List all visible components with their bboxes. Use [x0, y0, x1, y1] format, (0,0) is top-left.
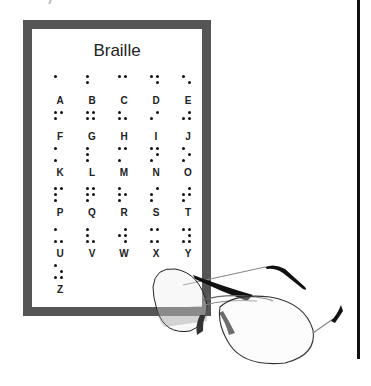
braille-dot: [92, 240, 95, 243]
braille-dot: [92, 111, 95, 114]
braille-letter-label: M: [109, 167, 139, 178]
braille-letter-label: G: [77, 131, 107, 142]
braille-letter-k: K: [45, 147, 75, 181]
braille-dot: [86, 117, 89, 120]
braille-dots: [150, 147, 162, 165]
braille-dots: [118, 228, 130, 246]
braille-dot: [156, 187, 159, 190]
braille-dot: [86, 153, 89, 156]
braille-letter-m: M: [109, 147, 139, 181]
braille-dot: [60, 240, 63, 243]
braille-letter-j: J: [173, 111, 203, 145]
braille-dot: [182, 193, 185, 196]
braille-letter-v: V: [77, 228, 107, 262]
braille-dot: [86, 81, 89, 84]
braille-dot: [150, 147, 153, 150]
vertical-divider-line: [357, 0, 360, 359]
braille-letter-q: Q: [77, 187, 107, 221]
braille-dot: [54, 117, 57, 120]
braille-letter-e: E: [173, 75, 203, 109]
braille-dot: [150, 75, 153, 78]
braille-dots: [118, 75, 130, 93]
braille-letter-label: Z: [45, 284, 75, 295]
braille-dot: [86, 75, 89, 78]
braille-letter-label: K: [45, 167, 75, 178]
braille-dot: [150, 228, 153, 231]
braille-dot: [86, 234, 89, 237]
braille-dot: [118, 147, 121, 150]
braille-letter-label: C: [109, 95, 139, 106]
braille-letter-label: T: [173, 207, 203, 218]
braille-letter-g: G: [77, 111, 107, 145]
braille-letter-w: W: [109, 228, 139, 262]
braille-dot: [124, 147, 127, 150]
braille-dot: [182, 228, 185, 231]
braille-dot: [118, 75, 121, 78]
braille-dot: [150, 117, 153, 120]
braille-dot: [150, 240, 153, 243]
braille-dot: [54, 159, 57, 162]
braille-letter-z: Z: [45, 264, 75, 298]
braille-dot: [156, 81, 159, 84]
braille-dot: [182, 240, 185, 243]
braille-letter-label: B: [77, 95, 107, 106]
braille-dot: [156, 75, 159, 78]
braille-dot: [182, 199, 185, 202]
braille-dot: [182, 75, 185, 78]
braille-dot: [86, 228, 89, 231]
braille-letter-t: T: [173, 187, 203, 221]
braille-dots: [54, 111, 66, 129]
braille-dot: [118, 234, 121, 237]
braille-letter-label: H: [109, 131, 139, 142]
braille-dot: [188, 228, 191, 231]
braille-letter-label: A: [45, 95, 75, 106]
braille-dots: [150, 228, 162, 246]
braille-dot: [54, 147, 57, 150]
braille-dot: [150, 193, 153, 196]
braille-dot: [188, 81, 191, 84]
braille-dot: [86, 199, 89, 202]
braille-dot: [86, 187, 89, 190]
braille-letter-label: U: [45, 248, 75, 259]
braille-letter-label: E: [173, 95, 203, 106]
braille-dots: [182, 111, 194, 129]
braille-dots: [118, 187, 130, 205]
braille-dot: [92, 117, 95, 120]
eyeglasses-icon: [145, 255, 345, 370]
braille-letter-label: W: [109, 248, 139, 259]
braille-dot: [124, 228, 127, 231]
braille-dots: [150, 187, 162, 205]
braille-dots: [118, 111, 130, 129]
braille-dot: [188, 111, 191, 114]
braille-dot: [54, 228, 57, 231]
braille-letter-r: R: [109, 187, 139, 221]
braille-dot: [60, 187, 63, 190]
braille-dot: [156, 147, 159, 150]
braille-letter-b: B: [77, 75, 107, 109]
braille-letter-label: P: [45, 207, 75, 218]
braille-dot: [150, 159, 153, 162]
braille-dot: [118, 193, 121, 196]
braille-dots: [118, 147, 130, 165]
braille-letter-l: L: [77, 147, 107, 181]
braille-letter-label: J: [173, 131, 203, 142]
braille-dot: [188, 117, 191, 120]
braille-dot: [188, 187, 191, 190]
braille-letter-label: L: [77, 167, 107, 178]
braille-dots: [54, 228, 66, 246]
braille-dot: [156, 153, 159, 156]
braille-letter-o: O: [173, 147, 203, 181]
braille-dots: [54, 264, 66, 282]
braille-dot: [92, 193, 95, 196]
braille-dot: [86, 111, 89, 114]
braille-dot: [54, 187, 57, 190]
braille-dots: [150, 75, 162, 93]
braille-dots: [54, 147, 66, 165]
braille-dot: [118, 117, 121, 120]
braille-dot: [156, 240, 159, 243]
braille-dot: [124, 234, 127, 237]
braille-dot: [60, 270, 63, 273]
braille-letter-label: D: [141, 95, 171, 106]
braille-dot: [124, 240, 127, 243]
braille-dot: [54, 75, 57, 78]
